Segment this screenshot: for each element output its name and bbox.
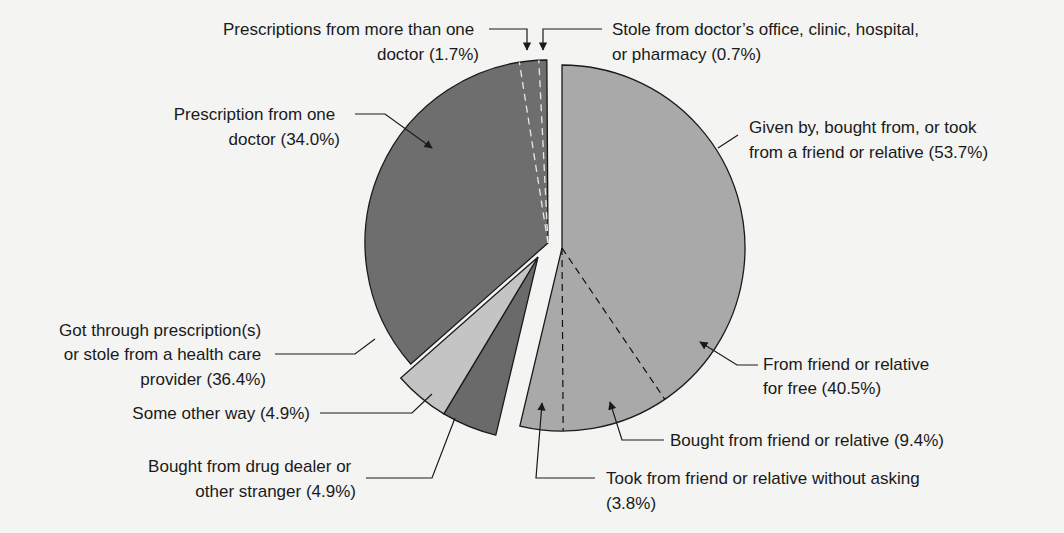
- pie-slices: [365, 60, 745, 435]
- pie-chart: Prescriptions from more than one doctor …: [0, 0, 1064, 533]
- leader-other-way: [320, 394, 432, 413]
- leader-rx-group: [275, 339, 375, 354]
- label-friend-group: Given by, bought from, or took from a fr…: [749, 118, 988, 162]
- label-other-way: Some other way (4.9%): [132, 404, 310, 423]
- label-rx-more: Prescriptions from more than one doctor …: [223, 20, 479, 64]
- label-bought-friend: Bought from friend or relative (9.4%): [670, 431, 944, 450]
- leader-friend-group: [718, 135, 738, 148]
- label-took: Took from friend or relative without ask…: [606, 469, 924, 513]
- leader-dealer: [366, 418, 455, 478]
- leader-rx-more: [489, 29, 527, 50]
- label-dealer: Bought from drug dealer or other strange…: [148, 457, 356, 501]
- leader-stole: [543, 29, 602, 50]
- label-rx-group: Got through prescription(s) or stole fro…: [59, 321, 266, 389]
- label-free: From friend or relative for free (40.5%): [763, 355, 934, 398]
- label-stole: Stole from doctor’s office, clinic, hosp…: [612, 20, 924, 64]
- pie-slice-0: [520, 65, 745, 431]
- label-rx-one: Prescription from one doctor (34.0%): [174, 105, 340, 149]
